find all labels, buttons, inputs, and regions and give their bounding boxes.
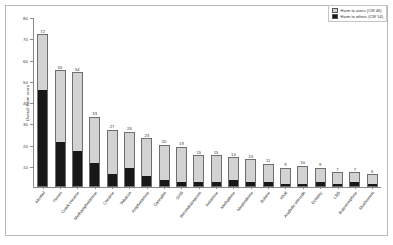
x-axis-labels: AlcoholHeroinCrack cocaineMethamphetamin… xyxy=(34,190,381,242)
y-tick-label: 80 xyxy=(23,16,28,21)
x-tick-mark xyxy=(199,187,200,189)
x-tick-mark xyxy=(60,187,61,189)
bar-slot: 54 xyxy=(69,18,86,187)
bar-value-label: 26 xyxy=(127,126,132,131)
bar[interactable]: 10 xyxy=(297,166,308,187)
bar[interactable]: 55 xyxy=(55,70,66,187)
bar-value-label: 11 xyxy=(266,158,270,163)
x-axis-label-cocaine: Cocaine xyxy=(103,191,116,206)
bar-value-label: 9 xyxy=(319,162,321,167)
bar[interactable]: 11 xyxy=(263,164,274,187)
x-label-slot: Buprenorphine xyxy=(346,190,363,242)
bar-segment-harm-to-others xyxy=(246,182,255,186)
bar-segment-harm-to-users xyxy=(38,35,47,90)
bar[interactable]: 54 xyxy=(72,72,83,187)
x-label-slot: Heroin xyxy=(51,190,68,242)
y-tick-label: 30 xyxy=(23,122,28,127)
x-label-slot: Methadone xyxy=(225,190,242,242)
bar-segment-harm-to-others xyxy=(125,168,134,186)
bar[interactable]: 27 xyxy=(107,130,118,187)
x-tick-mark xyxy=(320,187,321,189)
bar[interactable]: 23 xyxy=(141,138,152,187)
bar-segment-harm-to-others xyxy=(142,176,151,186)
bar-segment-harm-to-users xyxy=(264,165,273,182)
x-label-slot: Ketamine xyxy=(207,190,224,242)
x-axis-line xyxy=(33,187,381,188)
bar-segment-harm-to-users xyxy=(108,131,117,174)
bar[interactable]: 19 xyxy=(176,147,187,187)
bar-value-label: 54 xyxy=(75,67,80,72)
bar-value-label: 6 xyxy=(371,169,373,174)
x-axis-label-ecstasy: Ecstasy xyxy=(311,191,324,205)
x-tick-mark xyxy=(147,187,148,189)
bar-segment-harm-to-others xyxy=(281,184,290,186)
x-label-slot: Mephedrone xyxy=(242,190,259,242)
bar-slot: 19 xyxy=(173,18,190,187)
legend-item-harm-to-others: Harm to others (CW 54) xyxy=(332,14,383,19)
bar-value-label: 9 xyxy=(284,162,286,167)
bar-segment-harm-to-users xyxy=(125,133,134,168)
bar-slot: 72 xyxy=(34,18,51,187)
bar-segment-harm-to-users xyxy=(316,169,325,182)
x-label-slot: Cocaine xyxy=(103,190,120,242)
bar[interactable]: 7 xyxy=(332,172,343,187)
legend-label-harm-to-users: Harm to users (CW 46) xyxy=(341,8,382,13)
bar-segment-harm-to-users xyxy=(212,156,221,182)
bar-segment-harm-to-users xyxy=(160,146,169,180)
bar-value-label: 7 xyxy=(336,167,338,172)
x-tick-mark xyxy=(216,187,217,189)
y-tick-label: 10 xyxy=(23,164,28,169)
bar[interactable]: 9 xyxy=(315,168,326,187)
bar-value-label: 13 xyxy=(248,154,253,159)
bar[interactable]: 6 xyxy=(367,174,378,187)
bar[interactable]: 14 xyxy=(228,157,239,187)
x-label-slot: Methamphetamine xyxy=(86,190,103,242)
bar[interactable]: 33 xyxy=(89,117,100,187)
bar-slot: 9 xyxy=(277,18,294,187)
bar[interactable]: 15 xyxy=(211,155,222,187)
y-tick-mark xyxy=(30,167,33,168)
bar-value-label: 23 xyxy=(144,133,149,138)
x-tick-mark xyxy=(338,187,339,189)
bar-segment-harm-to-users xyxy=(333,173,342,184)
bar-slot: 55 xyxy=(51,18,68,187)
x-axis-label-alcohol: Alcohol xyxy=(34,191,46,205)
bar-segment-harm-to-others xyxy=(177,182,186,186)
x-label-slot: Butane xyxy=(259,190,276,242)
y-tick-mark xyxy=(30,18,33,19)
bar-segment-harm-to-users xyxy=(229,158,238,180)
bar[interactable]: 20 xyxy=(159,145,170,188)
bar-slot: 15 xyxy=(190,18,207,187)
bar-segment-harm-to-others xyxy=(368,184,377,186)
bar[interactable]: 72 xyxy=(37,34,48,187)
x-label-slot: Ecstasy xyxy=(312,190,329,242)
y-tick-mark xyxy=(30,124,33,125)
legend-label-harm-to-others: Harm to others (CW 54) xyxy=(341,14,383,19)
x-label-slot: Anabolic steroids xyxy=(294,190,311,242)
bar-value-label: 33 xyxy=(92,111,97,116)
bar-slot: 10 xyxy=(294,18,311,187)
bar-segment-harm-to-others xyxy=(56,142,65,186)
bar-slot: 26 xyxy=(121,18,138,187)
bar[interactable]: 13 xyxy=(245,159,256,187)
bar-segment-harm-to-users xyxy=(56,71,65,142)
bar[interactable]: 26 xyxy=(124,132,135,187)
bar[interactable]: 9 xyxy=(280,168,291,187)
x-axis-label-cannabis: Cannabis xyxy=(153,191,168,208)
bar-slot: 20 xyxy=(155,18,172,187)
bar-segment-harm-to-others xyxy=(350,182,359,186)
y-tick-label: 50 xyxy=(23,79,28,84)
bar[interactable]: 15 xyxy=(193,155,204,187)
x-axis-label-lsd: LSD xyxy=(332,191,341,200)
x-axis-label-heroin: Heroin xyxy=(52,191,63,204)
x-tick-mark xyxy=(164,187,165,189)
figure: Harm to users (CW 46) Harm to others (CW… xyxy=(0,0,393,245)
bar-segment-harm-to-users xyxy=(194,156,203,182)
bar[interactable]: 7 xyxy=(349,172,360,187)
x-tick-mark xyxy=(372,187,373,189)
x-label-slot: LSD xyxy=(329,190,346,242)
x-axis-label-tobacco: Tobacco xyxy=(120,191,133,206)
bar-value-label: 72 xyxy=(40,29,45,34)
x-label-slot: Alcohol xyxy=(34,190,51,242)
x-tick-mark xyxy=(285,187,286,189)
